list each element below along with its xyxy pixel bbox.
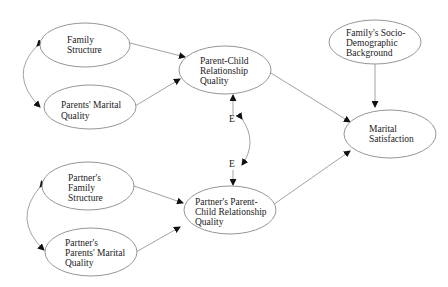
svg-text:Child Relationship: Child Relationship <box>195 207 267 217</box>
correlation-e1-e2 <box>242 119 250 165</box>
svg-text:Quality: Quality <box>200 76 229 86</box>
error-term-1: E <box>229 114 235 124</box>
node-marital-satisfaction: Marital Satisfaction <box>344 110 436 158</box>
svg-text:Marital: Marital <box>369 124 397 134</box>
node-parents-marital-quality: Parents' Marital Quality <box>44 85 136 129</box>
svg-text:Quality: Quality <box>195 217 224 227</box>
svg-text:Structure: Structure <box>68 193 103 203</box>
svg-text:Satisfaction: Satisfaction <box>369 134 414 144</box>
svg-text:Partner's Parent-: Partner's Parent- <box>195 197 258 207</box>
svg-text:Demographic: Demographic <box>346 38 398 48</box>
svg-text:Parents' Marital: Parents' Marital <box>61 100 121 110</box>
node-partner-family-structure: Partner's Family Structure <box>42 162 134 210</box>
svg-text:Background: Background <box>346 48 393 58</box>
svg-text:Family: Family <box>67 35 94 45</box>
svg-text:Relationship: Relationship <box>200 66 248 76</box>
arrow-marital-quality-to-pc <box>135 79 180 106</box>
svg-text:Quality: Quality <box>65 258 94 268</box>
arrow-pc-to-satisfaction <box>266 70 350 122</box>
node-partner-parents-marital-quality: Partner's Parents' Marital Quality <box>45 228 137 276</box>
svg-text:Parents' Marital: Parents' Marital <box>65 248 125 258</box>
path-diagram: Family Structure Parents' Marital Qualit… <box>0 0 448 287</box>
arrow-partner-family-to-ppc <box>134 186 183 203</box>
arrow-ppc-to-satisfaction <box>270 151 350 207</box>
svg-text:Family: Family <box>68 183 95 193</box>
svg-text:Parent-Child: Parent-Child <box>200 56 249 66</box>
node-family-structure: Family Structure <box>40 23 130 67</box>
error-term-2: E <box>229 159 235 169</box>
svg-text:Partner's: Partner's <box>68 173 101 183</box>
node-partner-parent-child-quality: Partner's Parent- Child Relationship Qua… <box>184 186 276 234</box>
svg-text:Structure: Structure <box>67 45 102 55</box>
correlation-family-structure-marital <box>23 46 40 107</box>
arrow-family-structure-to-pc <box>130 43 185 57</box>
svg-text:Partner's: Partner's <box>65 238 98 248</box>
node-socio-demographic-background: Family's Socio- Demographic Background <box>329 20 421 64</box>
node-parent-child-quality: Parent-Child Relationship Quality <box>179 46 271 94</box>
svg-text:Family's Socio-: Family's Socio- <box>346 28 406 38</box>
arrow-partner-marital-to-ppc <box>136 227 180 252</box>
correlation-partner-family-marital <box>27 187 44 250</box>
svg-text:Quality: Quality <box>61 111 90 121</box>
